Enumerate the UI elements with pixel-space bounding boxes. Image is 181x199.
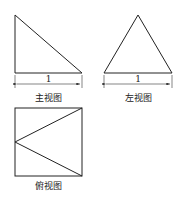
top-view: 俯视图 bbox=[15, 108, 82, 191]
left-view-triangle bbox=[104, 15, 172, 73]
top-view-edge bbox=[15, 108, 82, 142]
top-view-square bbox=[15, 108, 82, 176]
front-view-triangle bbox=[15, 15, 82, 73]
left-view-caption: 左视图 bbox=[125, 92, 152, 103]
top-view-caption: 俯视图 bbox=[35, 180, 62, 191]
front-view-caption: 主视图 bbox=[35, 92, 62, 103]
left-view: 1 左视图 bbox=[104, 15, 172, 103]
front-view: 1 主视图 bbox=[15, 15, 82, 103]
three-view-drawing: 1 主视图 1 左视图 俯视图 bbox=[0, 0, 181, 199]
left-dimension-label: 1 bbox=[135, 74, 141, 84]
top-view-edge bbox=[15, 142, 82, 176]
front-dimension-label: 1 bbox=[46, 74, 52, 84]
